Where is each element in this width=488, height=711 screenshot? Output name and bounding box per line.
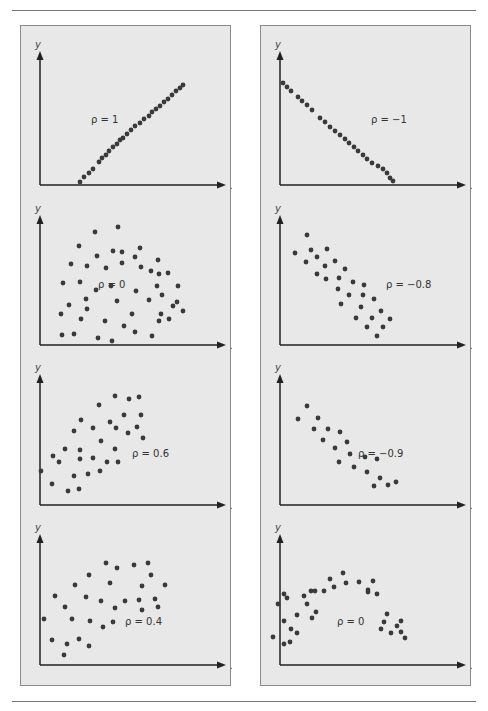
data-point [181,83,186,88]
data-point [359,305,364,310]
data-point [385,171,390,176]
data-point [158,104,163,109]
data-point [98,469,103,474]
data-point [139,265,144,270]
data-point [332,585,337,590]
data-point [302,594,307,599]
correlation-annotation: ρ = 0.4 [125,616,162,627]
x-axis-arrow-icon [457,182,466,189]
data-point [351,280,356,285]
data-point [104,561,109,566]
data-point [62,653,67,658]
data-point [50,638,55,643]
data-point [171,304,176,309]
data-point [133,255,138,260]
data-point [127,397,132,402]
x-axis-label: x [470,340,472,351]
data-point [77,487,82,492]
data-point [91,167,96,172]
y-axis-label: y [274,39,282,50]
data-point [288,640,293,645]
data-point [352,145,357,150]
data-point [276,602,281,607]
data-point [122,413,127,418]
data-point [60,333,65,338]
y-axis-label: y [34,362,42,373]
data-point [87,573,92,578]
data-point [305,233,310,238]
data-point [154,107,159,112]
data-point [348,452,353,457]
y-axis-label: y [34,203,42,214]
y-axis-arrow-icon [37,534,44,543]
data-point [116,225,121,230]
data-point [72,474,77,479]
data-point [285,85,290,90]
data-point [300,99,305,104]
data-point [67,303,72,308]
data-point [391,179,396,184]
data-point [133,330,138,335]
data-point [388,317,393,322]
data-point [347,141,352,146]
y-axis-arrow-icon [277,534,284,543]
data-point [87,171,92,176]
scatter-plot-right-0: yxρ = −1 [274,39,472,191]
data-point [333,446,338,451]
data-point [372,297,377,302]
data-point [88,619,93,624]
data-point [339,302,344,307]
data-point [399,619,404,624]
y-axis-arrow-icon [37,374,44,383]
x-axis-arrow-icon [217,342,226,349]
data-point [63,605,68,610]
data-point [321,438,326,443]
data-point [337,460,342,465]
data-point [146,561,151,566]
data-point [100,156,105,161]
data-point [111,249,116,254]
data-point [271,635,276,640]
x-axis-arrow-icon [457,662,466,669]
data-point [126,431,131,436]
y-axis-arrow-icon [37,215,44,224]
data-point [386,483,391,488]
data-point [305,103,310,108]
data-point [78,457,83,462]
data-point [110,339,115,344]
data-point [282,619,287,624]
data-point [365,470,370,475]
data-point [84,595,89,600]
data-point [70,617,75,622]
data-point [42,617,47,622]
data-point [147,114,152,119]
data-point [135,425,140,430]
data-point [338,133,343,138]
data-point [149,269,154,274]
data-point [138,121,143,126]
data-point [159,312,164,317]
x-axis-label: x [230,180,232,191]
data-point [281,81,286,86]
data-point [366,590,371,595]
x-axis-label: x [470,180,472,191]
data-point [375,592,380,597]
data-point [333,129,338,134]
data-point [133,124,138,129]
data-point [305,404,310,409]
left-panel: yxρ = 1yxρ = 0yxρ = 0.6yxρ = 0.4 [20,25,231,686]
data-point [72,332,77,337]
data-point [371,579,376,584]
data-point [73,583,78,588]
data-point [337,276,342,281]
data-point [363,455,368,460]
data-point [312,427,317,432]
data-point [121,136,126,141]
data-point [53,594,58,599]
x-axis-arrow-icon [457,342,466,349]
data-point [365,325,370,330]
data-point [162,100,167,105]
data-point [94,288,99,293]
data-point [282,642,287,647]
data-point [394,480,399,485]
